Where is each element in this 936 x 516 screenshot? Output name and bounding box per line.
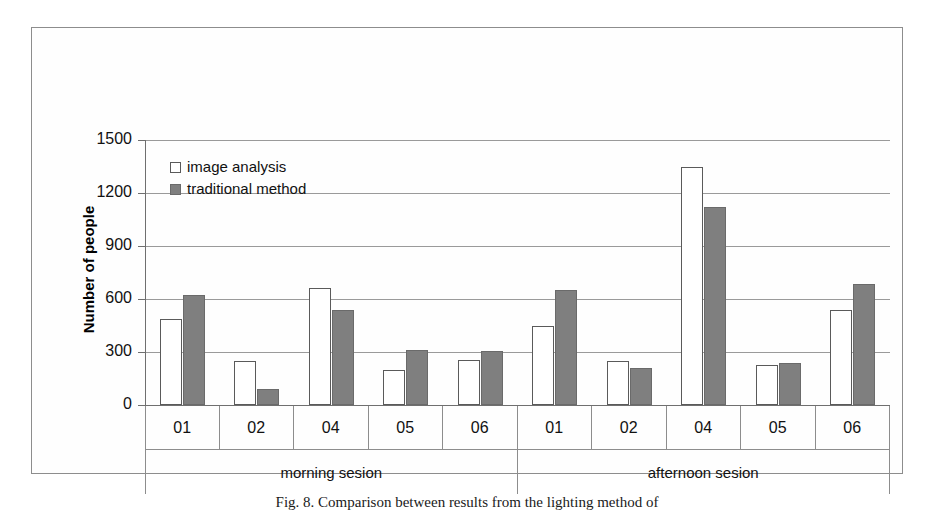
category-label-05-3: 05	[369, 406, 444, 450]
y-axis-tick-mark	[138, 405, 145, 406]
bar-image-analysis-01-0	[160, 319, 182, 405]
category-label-06-9: 06	[816, 406, 891, 450]
category-label-02-1: 02	[220, 406, 295, 450]
group-label-afternoon-sesion: afternoon sesion	[518, 450, 891, 494]
category-label-02-6: 02	[592, 406, 667, 450]
bar-traditional-method-02-1	[257, 389, 279, 405]
bar-image-analysis-04-2	[309, 288, 331, 405]
legend-label: traditional method	[187, 178, 306, 200]
bar-image-analysis-06-4	[458, 360, 480, 405]
bar-image-analysis-01-5	[532, 326, 554, 406]
bar-image-analysis-04-7	[681, 167, 703, 406]
bar-traditional-method-04-7	[704, 207, 726, 405]
category-label-04-2: 04	[294, 406, 369, 450]
y-axis-title: Number of people	[80, 170, 97, 370]
bar-image-analysis-05-8	[756, 365, 778, 405]
category-axis-row: 01020405060102040506	[145, 406, 890, 450]
legend-entry-traditional-method: traditional method	[170, 178, 306, 200]
group-axis-row: morning sesionafternoon sesion	[145, 450, 890, 494]
chart-legend: image analysis traditional method	[170, 156, 306, 200]
bar-image-analysis-05-3	[383, 370, 405, 405]
legend-swatch-icon	[170, 184, 181, 195]
figure-page: 030060090012001500 Number of people imag…	[0, 0, 936, 516]
category-label-06-4: 06	[443, 406, 518, 450]
y-axis-tick-mark	[138, 299, 145, 300]
y-axis-tick-mark	[138, 193, 145, 194]
bar-traditional-method-06-9	[853, 284, 875, 405]
bar-traditional-method-01-0	[183, 295, 205, 405]
legend-label: image analysis	[187, 156, 286, 178]
bar-traditional-method-05-3	[406, 350, 428, 405]
legend-swatch-icon	[170, 162, 181, 173]
figure-caption: Fig. 8. Comparison between results from …	[31, 494, 903, 511]
bar-image-analysis-02-6	[607, 361, 629, 405]
category-label-04-7: 04	[667, 406, 742, 450]
bar-image-analysis-02-1	[234, 361, 256, 405]
bar-traditional-method-02-6	[630, 368, 652, 405]
category-label-05-8: 05	[741, 406, 816, 450]
group-label-morning-sesion: morning sesion	[145, 450, 518, 494]
y-axis-tick-label: 1500	[72, 130, 132, 148]
figure-frame: 030060090012001500 Number of people imag…	[31, 27, 903, 474]
bar-traditional-method-01-5	[555, 290, 577, 405]
bar-image-analysis-06-9	[830, 310, 852, 405]
y-axis-tick-mark	[138, 246, 145, 247]
bar-traditional-method-04-2	[332, 310, 354, 405]
y-axis-tick-label: 0	[72, 395, 132, 413]
category-label-01-0: 01	[145, 406, 220, 450]
y-axis-tick-mark	[138, 352, 145, 353]
bar-traditional-method-05-8	[779, 363, 801, 405]
bar-traditional-method-06-4	[481, 351, 503, 405]
category-label-01-5: 01	[518, 406, 593, 450]
legend-entry-image-analysis: image analysis	[170, 156, 306, 178]
y-axis-tick-mark	[138, 140, 145, 141]
